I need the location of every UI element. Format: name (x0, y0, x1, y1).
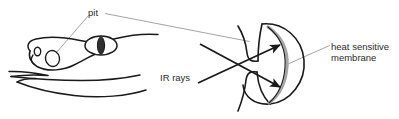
label-ir-rays: IR rays (160, 72, 190, 83)
jaw-line-1 (9, 71, 48, 76)
jaw-line-4 (17, 79, 36, 83)
leader-membrane (288, 46, 330, 65)
jaw-line-2 (11, 75, 140, 81)
jaw-line-3 (17, 82, 146, 97)
vertical-slit-pupil (97, 37, 104, 54)
label-membrane-line1: heat sensitive (331, 41, 389, 52)
pit-opening-lower-lip (238, 72, 257, 111)
label-membrane-line2: membrane (331, 52, 389, 63)
lower-jaw-lines (9, 71, 146, 96)
pit-organ-outer-wall (243, 24, 304, 104)
ir-ray-arrows (198, 44, 280, 87)
membrane-edge (268, 27, 285, 103)
label-pit: pit (88, 7, 98, 18)
nostril (34, 47, 40, 55)
snake-pit-organ-figure: pit IR rays heat sensitive membrane (0, 0, 399, 119)
pit-cavity-lower (257, 72, 270, 104)
snake-head-group (9, 34, 158, 97)
leader-pit-to-organ (105, 14, 250, 42)
pit-organ-chamber (238, 24, 304, 111)
leader-pit-to-head (57, 16, 89, 53)
label-heat-sensitive-membrane: heat sensitive membrane (331, 41, 389, 63)
pit-opening (44, 49, 61, 68)
